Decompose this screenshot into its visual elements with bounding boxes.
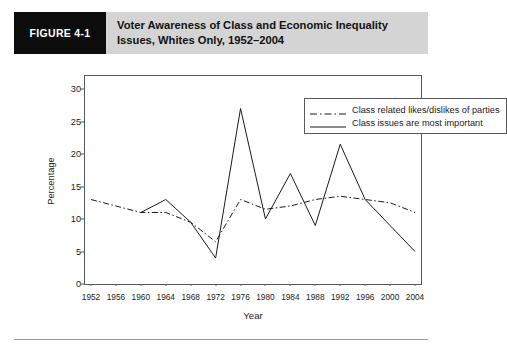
legend-label-1: Class issues are most important bbox=[352, 118, 483, 128]
x-axis-ticks: 1952195619601964196819721976198019841988… bbox=[84, 286, 422, 308]
x-tick-label: 1968 bbox=[181, 292, 199, 302]
legend-swatch-solid bbox=[310, 118, 346, 128]
x-tick-label: 1976 bbox=[231, 292, 249, 302]
x-tick-label: 1952 bbox=[82, 292, 100, 302]
legend-swatch-dash-dot bbox=[310, 105, 346, 115]
x-axis-title: Year bbox=[84, 310, 422, 321]
footer-divider bbox=[14, 339, 428, 340]
y-axis-ticks: 051015202530 bbox=[0, 58, 84, 286]
x-tick-label: 1988 bbox=[306, 292, 324, 302]
x-tick-label: 1992 bbox=[331, 292, 349, 302]
figure-title: Voter Awareness of Class and Economic In… bbox=[106, 12, 428, 54]
legend-item-class-related-likes-dislikes: Class related likes/dislikes of parties bbox=[310, 103, 500, 116]
x-tick-label: 1972 bbox=[206, 292, 224, 302]
legend-label-0: Class related likes/dislikes of parties bbox=[352, 105, 500, 115]
legend-item-class-issues-most-important: Class issues are most important bbox=[310, 116, 500, 129]
x-tick-label: 1956 bbox=[107, 292, 125, 302]
series-line-0 bbox=[91, 196, 415, 242]
x-tick-label: 2000 bbox=[381, 292, 399, 302]
x-tick-label: 2004 bbox=[406, 292, 424, 302]
chart-legend: Class related likes/dislikes of parties … bbox=[304, 98, 507, 134]
figure-header: FIGURE 4-1 Voter Awareness of Class and … bbox=[14, 12, 428, 54]
figure-number-tag: FIGURE 4-1 bbox=[14, 12, 106, 54]
x-tick-label: 1984 bbox=[281, 292, 299, 302]
x-tick-label: 1980 bbox=[256, 292, 274, 302]
figure-body: Percentage Year 051015202530 19521956196… bbox=[0, 58, 443, 328]
plot-area: Class related likes/dislikes of parties … bbox=[84, 75, 422, 285]
x-tick-label: 1960 bbox=[132, 292, 150, 302]
x-tick-label: 1964 bbox=[157, 292, 175, 302]
x-tick-label: 1996 bbox=[356, 292, 374, 302]
